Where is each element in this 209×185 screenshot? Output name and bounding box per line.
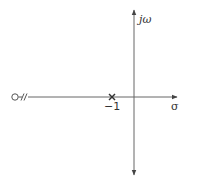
jomega-axis-label: jω xyxy=(139,14,151,25)
pole-zero-diagram: −1 σ jω xyxy=(0,0,209,185)
s-plane-svg xyxy=(0,0,209,185)
zero-at-infinity-marker xyxy=(12,94,27,101)
sigma-axis-label: σ xyxy=(171,101,179,112)
pole-label: −1 xyxy=(104,101,120,112)
